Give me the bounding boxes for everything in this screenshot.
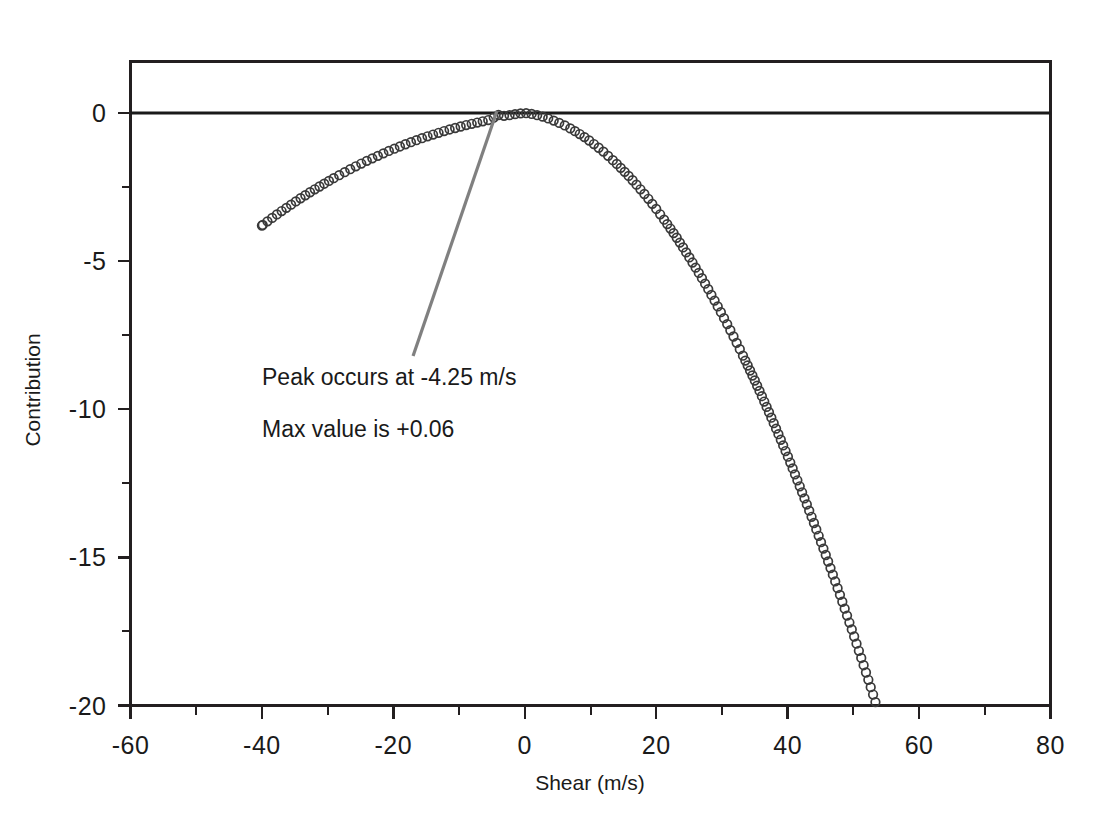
x-tick-label: 40 [773, 731, 802, 759]
x-tick-label: -60 [112, 731, 150, 759]
chart-figure: -60-40-20020406080 0-5-10-15-20 Peak occ… [0, 0, 1101, 818]
y-tick-label: -15 [69, 543, 107, 571]
x-tick-label: -40 [243, 731, 281, 759]
x-tick-label: 80 [1036, 731, 1065, 759]
annotation-line-1: Peak occurs at -4.25 m/s [262, 364, 516, 390]
x-axis-title: Shear (m/s) [535, 771, 645, 794]
y-tick-label: 0 [92, 99, 106, 127]
y-tick-label: -20 [69, 692, 107, 720]
annotation-line-2: Max value is +0.06 [262, 416, 454, 442]
y-tick-label: -10 [69, 395, 107, 423]
y-axis-title: Contribution [21, 333, 44, 446]
x-tick-label: 60 [905, 731, 934, 759]
x-tick-label: -20 [375, 731, 413, 759]
y-tick-label: -5 [83, 247, 106, 275]
x-tick-label: 20 [642, 731, 671, 759]
x-tick-label: 0 [518, 731, 532, 759]
scatter-plot: -60-40-20020406080 0-5-10-15-20 Peak occ… [0, 0, 1101, 818]
